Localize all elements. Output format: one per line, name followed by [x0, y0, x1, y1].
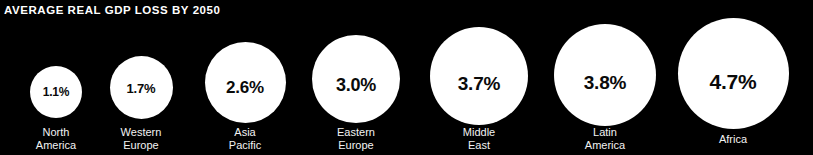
- bubble-label-africa: Africa: [643, 133, 813, 146]
- bubble-value-africa: 4.7%: [643, 71, 813, 92]
- gdp-loss-infographic: AVERAGE REAL GDP LOSS BY 2050 1.1%North …: [0, 0, 813, 155]
- bubble-chart: 1.1%North America1.7%Western Europe2.6%A…: [0, 0, 813, 155]
- bubble-group-africa[interactable]: 4.7%Africa: [643, 0, 813, 155]
